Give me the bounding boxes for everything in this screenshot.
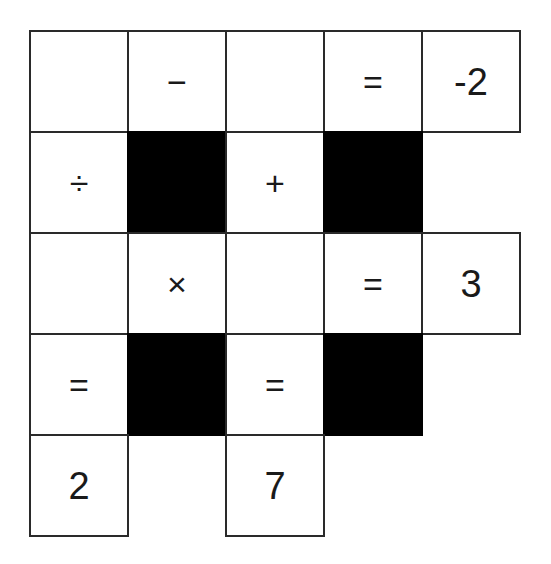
cell-r1-c0-divide-operator: ÷ (29, 131, 129, 234)
cell-r4-c2-result: 7 (225, 434, 325, 537)
cell-r0-c3-equals-operator: = (323, 30, 423, 133)
cell-r2-c2-input[interactable] (225, 232, 325, 335)
cell-r3-c1-black-block (127, 333, 227, 436)
cell-r0-c2-input[interactable] (225, 30, 325, 133)
cell-r2-c0-input[interactable] (29, 232, 129, 335)
math-crossword-grid: − = -2 ÷ + × = 3 = = 2 7 (29, 30, 524, 540)
cell-r1-c3-black-block (323, 131, 423, 234)
cell-r2-c3-equals-operator: = (323, 232, 423, 335)
cell-r3-c2-equals-operator: = (225, 333, 325, 436)
cell-r0-c1-minus-operator: − (127, 30, 227, 133)
cell-r0-c4-result: -2 (421, 30, 521, 133)
cell-r3-c3-black-block (323, 333, 423, 436)
cell-r1-c2-plus-operator: + (225, 131, 325, 234)
cell-r0-c0-input[interactable] (29, 30, 129, 133)
cell-r3-c0-equals-operator: = (29, 333, 129, 436)
cell-r2-c1-multiply-operator: × (127, 232, 227, 335)
cell-r4-c0-result: 2 (29, 434, 129, 537)
cell-r1-c1-black-block (127, 131, 227, 234)
cell-r2-c4-result: 3 (421, 232, 521, 335)
